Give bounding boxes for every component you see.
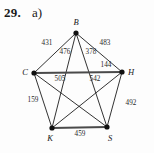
graph-vertex-label: C	[22, 67, 28, 77]
edge-weight-label: 459	[75, 130, 86, 138]
graph-vertex-label: B	[73, 17, 78, 27]
edge-weight-label: 159	[28, 96, 39, 104]
graph-vertex-dot	[49, 125, 54, 130]
graph-vertex-dot	[104, 124, 109, 129]
edge-weight-label: 431	[42, 39, 53, 47]
graph-vertex-dot	[31, 70, 36, 75]
edge-weight-label: 144	[101, 61, 112, 69]
edge-weight-label: 505	[55, 75, 66, 83]
graph-vertices: BCHKS	[22, 17, 135, 143]
graph-edges	[34, 33, 122, 128]
graph-vertex-label: H	[127, 67, 135, 77]
edge-weight-label: 378	[86, 48, 97, 56]
graph-edge	[107, 72, 122, 127]
edge-weight-label: 476	[60, 48, 71, 56]
graph-edge	[34, 72, 122, 73]
graph-edge	[52, 127, 107, 128]
edge-weight-label: 542	[90, 75, 101, 83]
edge-weight-label: 492	[126, 99, 137, 107]
graph-vertex-label: K	[46, 133, 54, 143]
graph-vertex-label: S	[108, 133, 113, 143]
graph-vertex-dot	[119, 69, 124, 74]
graph-vertex-dot	[73, 30, 78, 35]
weighted-graph-diagram: BCHKS 431483476378144505159542492459	[0, 0, 154, 153]
figure-container: 29. a) BCHKS 431483476378144505159542492…	[0, 0, 154, 153]
graph-edge-weights: 431483476378144505159542492459	[28, 39, 137, 138]
edge-weight-label: 483	[100, 39, 111, 47]
